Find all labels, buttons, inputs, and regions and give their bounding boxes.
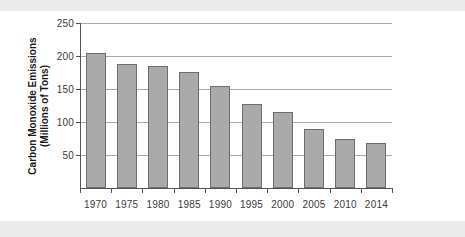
bar <box>366 143 386 188</box>
chart-page: Carbon Monoxide Emissions (Millions of T… <box>0 0 465 237</box>
y-axis-line <box>80 23 81 188</box>
grid-line <box>80 23 392 24</box>
bar <box>210 86 230 188</box>
x-axis-tick-label: 2005 <box>302 199 325 210</box>
x-axis-tick <box>205 188 206 193</box>
bar-chart: Carbon Monoxide Emissions (Millions of T… <box>0 11 465 221</box>
y-axis-tick-label: 150 <box>57 84 74 95</box>
y-axis-tick-label: 100 <box>57 117 74 128</box>
x-axis-tick <box>267 188 268 193</box>
x-axis-tick <box>142 188 143 193</box>
bottom-band <box>0 221 465 237</box>
y-axis-tick-label: 250 <box>57 18 74 29</box>
y-axis-tick <box>76 155 81 156</box>
bar <box>148 66 168 188</box>
x-axis-tick-label: 1975 <box>115 199 138 210</box>
y-axis-tick <box>76 56 81 57</box>
y-axis-tick <box>76 23 81 24</box>
x-axis-tick <box>236 188 237 193</box>
y-axis-title: Carbon Monoxide Emissions (Millions of T… <box>22 23 56 188</box>
x-axis-tick <box>174 188 175 193</box>
y-axis-title-line1: Carbon Monoxide Emissions <box>27 37 39 174</box>
bar <box>117 64 137 188</box>
bar <box>86 53 106 188</box>
y-axis-tick <box>76 122 81 123</box>
x-axis-tick-label: 1995 <box>240 199 263 210</box>
bar <box>335 139 355 188</box>
bar <box>242 104 262 188</box>
y-axis-tick-label: 50 <box>62 150 74 161</box>
x-axis-tick-label: 2014 <box>365 199 388 210</box>
x-axis-tick-label: 1985 <box>178 199 201 210</box>
x-axis-tick-label: 1980 <box>146 199 169 210</box>
y-axis-tick-label: 200 <box>57 51 74 62</box>
x-axis-tick-label: 2000 <box>271 199 294 210</box>
y-axis-title-line2: (Millions of Tons) <box>39 37 51 174</box>
bar <box>179 72 199 188</box>
top-band <box>0 0 465 11</box>
x-axis-tick-label: 2010 <box>334 199 357 210</box>
plot-area: 5010015020025019701975198019851990199520… <box>80 23 392 188</box>
x-axis-tick <box>392 188 393 193</box>
bar <box>273 112 293 188</box>
x-axis-tick <box>111 188 112 193</box>
x-axis-tick <box>330 188 331 193</box>
x-axis-tick <box>361 188 362 193</box>
x-axis-tick <box>298 188 299 193</box>
bar <box>304 129 324 188</box>
y-axis-tick <box>76 89 81 90</box>
x-axis-tick-label: 1990 <box>209 199 232 210</box>
x-axis-tick <box>80 188 81 193</box>
grid-line <box>80 56 392 57</box>
x-axis-tick-label: 1970 <box>84 199 107 210</box>
